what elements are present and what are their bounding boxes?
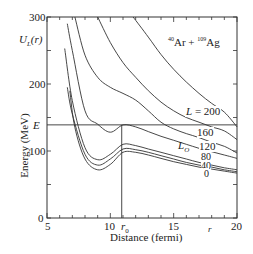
y-tick-label: 100 (29, 146, 46, 157)
y-axis-title: Energy (MeV) (19, 106, 30, 186)
potential-label: UL(r) (19, 34, 42, 50)
curve-label-0: 0 (204, 168, 209, 179)
curve-label-L0: LO (178, 140, 189, 156)
y-tick-label: 200 (29, 79, 46, 90)
x-tick-label: 20 (231, 221, 242, 232)
r-axis-label: r (208, 224, 212, 235)
curve-label-160: 160 (197, 127, 214, 138)
curve-label-200: L = 200 (185, 106, 221, 117)
reaction-label: 40Ar + 109Ag (168, 34, 220, 48)
y-tick-label: 0 (38, 213, 44, 224)
x-axis-title: Distance (fermi) (110, 232, 182, 243)
energy-label: E (33, 120, 40, 131)
y-tick-label: 300 (29, 12, 46, 23)
x-tick-label: 5 (45, 221, 51, 232)
